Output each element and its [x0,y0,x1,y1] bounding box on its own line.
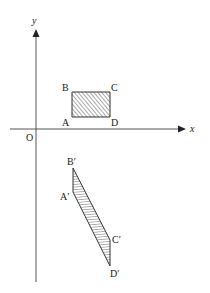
x-axis: x [10,123,195,134]
vertex-label-d-prime: D′ [110,268,119,279]
vertex-label-c: C [111,82,118,93]
vertex-label-b: B [62,82,69,93]
x-axis-arrow-icon [178,126,186,133]
parallelogram-a-prime-b-prime-c-prime-d-prime: B′ A′ C′ D′ [60,156,121,279]
x-axis-label: x [189,123,195,134]
vertex-label-d: D [111,117,118,128]
vertex-label-b-prime: B′ [67,156,76,167]
y-axis: y [31,15,40,282]
y-axis-arrow-icon [33,29,40,37]
vertex-label-a: A [62,117,70,128]
origin-label: O [26,132,33,143]
vertex-label-a-prime: A′ [60,191,69,202]
y-axis-label: y [31,15,37,26]
vertex-label-c-prime: C′ [112,234,121,245]
rectangle-abcd: B C A D [62,82,118,128]
transformation-diagram: x y O B C A D B′ A′ C′ D′ [0,0,210,293]
